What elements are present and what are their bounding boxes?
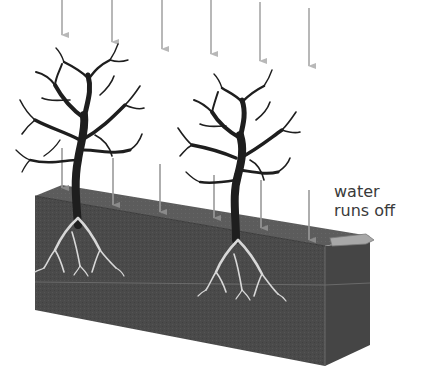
soil-block [35, 185, 370, 366]
rain-arrows-top [62, 0, 309, 66]
runoff-label-line2: runs off [334, 201, 395, 220]
soil-side-face [325, 240, 370, 366]
runoff-label-line1: water [334, 182, 380, 201]
